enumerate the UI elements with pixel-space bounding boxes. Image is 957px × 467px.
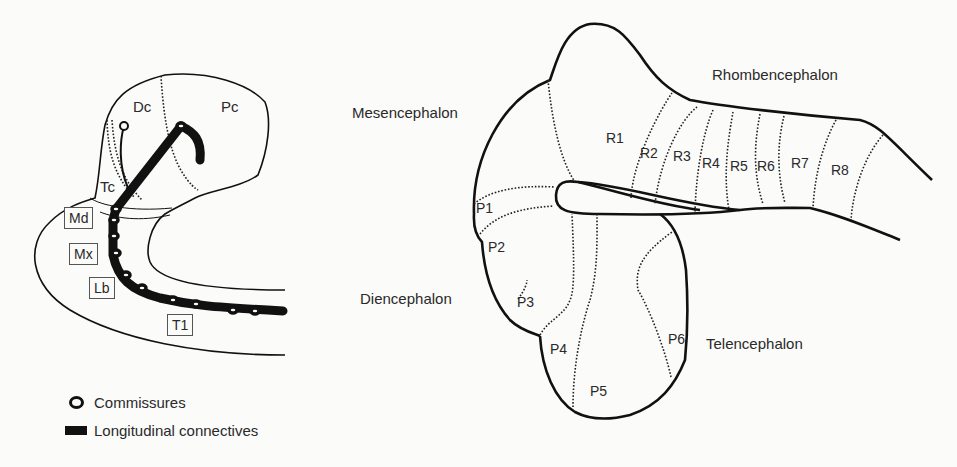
legend-longitudinal: Longitudinal connectives bbox=[64, 422, 258, 439]
label-rhombencephalon: Rhombencephalon bbox=[712, 67, 838, 82]
segment-lines bbox=[90, 198, 172, 219]
commissure-icon bbox=[64, 396, 88, 409]
segment-md: Md bbox=[64, 207, 93, 229]
label-r8: R8 bbox=[831, 163, 849, 177]
brain-outline bbox=[474, 24, 932, 419]
label-r4: R4 bbox=[702, 156, 720, 170]
label-p6: P6 bbox=[668, 332, 685, 346]
label-p3: P3 bbox=[517, 295, 534, 309]
legend-commissures-label: Commissures bbox=[94, 394, 186, 411]
label-p5: P5 bbox=[590, 384, 607, 398]
label-tc: Tc bbox=[100, 179, 115, 194]
neuromere-boundaries bbox=[474, 80, 883, 407]
thin-connective bbox=[121, 126, 128, 188]
label-r1: R1 bbox=[606, 131, 624, 145]
legend-commissures: Commissures bbox=[64, 394, 186, 411]
label-p2: P2 bbox=[488, 240, 505, 254]
segment-lb: Lb bbox=[89, 277, 115, 299]
label-p4: P4 bbox=[550, 342, 567, 356]
connective-bar-icon bbox=[64, 426, 88, 435]
label-r5: R5 bbox=[730, 159, 748, 173]
label-mesencephalon: Mesencephalon bbox=[352, 105, 458, 120]
segment-t1: T1 bbox=[167, 314, 193, 336]
label-diencephalon: Diencephalon bbox=[360, 291, 452, 306]
label-r2: R2 bbox=[640, 146, 658, 160]
legend-longitudinal-label: Longitudinal connectives bbox=[94, 422, 258, 439]
label-telencephalon: Telencephalon bbox=[706, 336, 803, 351]
figure-canvas: Dc Pc Tc Md Mx Lb T1 Commissures Longitu… bbox=[0, 0, 957, 467]
label-r6: R6 bbox=[757, 159, 775, 173]
label-r7: R7 bbox=[791, 156, 809, 170]
label-pc: Pc bbox=[221, 99, 239, 114]
segment-mx: Mx bbox=[69, 243, 98, 265]
label-p1: P1 bbox=[476, 201, 493, 215]
label-dc: Dc bbox=[133, 99, 151, 114]
label-r3: R3 bbox=[673, 149, 691, 163]
small-commissure bbox=[120, 122, 128, 130]
